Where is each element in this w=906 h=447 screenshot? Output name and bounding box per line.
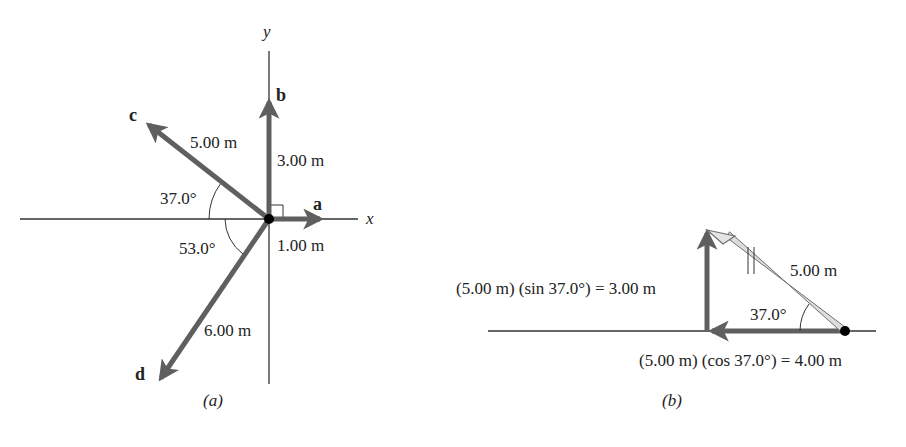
horizontal-component-label: (5.00 m) (cos 37.0°) = 4.00 m [639, 352, 842, 369]
vector-b-name: b [276, 86, 286, 104]
tail-point [840, 326, 850, 336]
vector-d-name: d [135, 365, 145, 383]
vector-a-magnitude: 1.00 m [277, 237, 324, 254]
angle-label-b: 37.0° [750, 306, 787, 323]
vector-c-angle: 37.0° [160, 190, 197, 207]
panel-a-diagram [20, 51, 358, 384]
angle-arc-c [209, 183, 221, 219]
y-axis-label: y [263, 23, 271, 40]
vector-a-name: a [313, 195, 322, 213]
angle-arc-b [800, 304, 809, 331]
panel-b-caption: (b) [662, 392, 682, 409]
vector-d-angle: 53.0° [179, 240, 216, 257]
vector-c-name: c [129, 106, 137, 124]
vertical-component-label: (5.00 m) (sin 37.0°) = 3.00 m [456, 280, 656, 297]
angle-arc-d [225, 219, 243, 254]
hypotenuse-magnitude: 5.00 m [790, 262, 837, 279]
vector-b-magnitude: 3.00 m [277, 152, 324, 169]
vector-c-magnitude: 5.00 m [190, 134, 237, 151]
origin-point [264, 214, 274, 224]
panel-a-caption: (a) [203, 392, 223, 409]
x-axis-label: x [366, 210, 374, 227]
vector-d-magnitude: 6.00 m [204, 322, 251, 339]
